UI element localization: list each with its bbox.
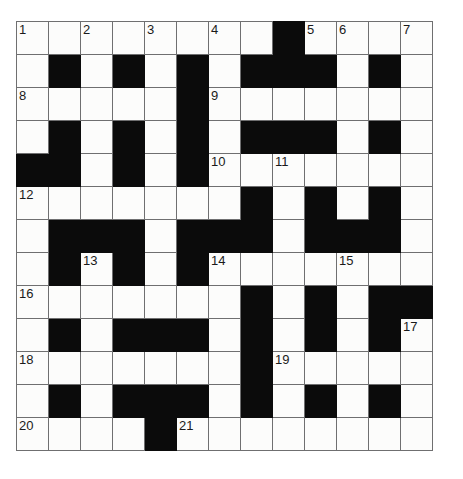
crossword-cell[interactable] [145,55,177,88]
crossword-cell[interactable]: 3 [145,22,177,55]
crossword-cell[interactable]: 4 [209,22,241,55]
crossword-cell[interactable] [305,154,337,187]
crossword-cell[interactable] [113,88,145,121]
crossword-cell[interactable] [401,418,433,451]
crossword-cell[interactable] [401,352,433,385]
crossword-cell[interactable] [209,418,241,451]
crossword-cell[interactable] [177,187,209,220]
crossword-cell[interactable] [337,88,369,121]
crossword-cell[interactable] [273,319,305,352]
crossword-cell[interactable] [81,154,113,187]
crossword-cell[interactable] [145,121,177,154]
crossword-cell[interactable] [401,88,433,121]
crossword-cell[interactable]: 18 [17,352,49,385]
crossword-cell[interactable] [401,385,433,418]
crossword-cell[interactable]: 15 [337,253,369,286]
crossword-cell[interactable]: 20 [17,418,49,451]
crossword-cell[interactable] [145,154,177,187]
crossword-cell[interactable] [337,187,369,220]
crossword-cell[interactable] [17,220,49,253]
crossword-cell[interactable] [209,121,241,154]
crossword-cell[interactable] [273,187,305,220]
crossword-cell[interactable]: 6 [337,22,369,55]
crossword-cell[interactable] [241,22,273,55]
crossword-cell[interactable] [369,352,401,385]
crossword-cell[interactable] [81,121,113,154]
crossword-cell[interactable]: 12 [17,187,49,220]
crossword-cell[interactable] [305,253,337,286]
crossword-cell[interactable] [273,286,305,319]
crossword-cell[interactable] [145,253,177,286]
crossword-cell[interactable]: 14 [209,253,241,286]
crossword-cell[interactable] [81,319,113,352]
crossword-cell[interactable] [305,88,337,121]
crossword-cell[interactable] [273,385,305,418]
crossword-cell[interactable] [369,88,401,121]
crossword-grid[interactable]: 123456789101112131415161718192021 [16,21,433,451]
crossword-cell[interactable] [337,418,369,451]
crossword-cell[interactable] [337,121,369,154]
crossword-cell[interactable] [145,352,177,385]
crossword-cell[interactable] [337,319,369,352]
crossword-cell[interactable] [369,154,401,187]
crossword-cell[interactable] [145,220,177,253]
crossword-cell[interactable] [209,352,241,385]
crossword-cell[interactable] [401,220,433,253]
crossword-cell[interactable]: 10 [209,154,241,187]
crossword-cell[interactable]: 9 [209,88,241,121]
crossword-cell[interactable]: 17 [401,319,433,352]
crossword-cell[interactable] [145,187,177,220]
crossword-cell[interactable]: 5 [305,22,337,55]
crossword-cell[interactable] [369,22,401,55]
crossword-cell[interactable] [17,385,49,418]
crossword-cell[interactable] [81,88,113,121]
crossword-cell[interactable] [401,55,433,88]
crossword-cell[interactable] [81,418,113,451]
crossword-cell[interactable]: 11 [273,154,305,187]
crossword-cell[interactable] [81,352,113,385]
crossword-cell[interactable] [369,253,401,286]
crossword-cell[interactable] [209,55,241,88]
crossword-cell[interactable]: 7 [401,22,433,55]
crossword-cell[interactable] [241,418,273,451]
crossword-cell[interactable] [401,154,433,187]
crossword-cell[interactable] [49,352,81,385]
crossword-cell[interactable] [145,286,177,319]
crossword-cell[interactable] [337,286,369,319]
crossword-cell[interactable] [17,121,49,154]
crossword-cell[interactable] [81,55,113,88]
crossword-cell[interactable] [81,385,113,418]
crossword-cell[interactable] [401,121,433,154]
crossword-cell[interactable] [305,352,337,385]
crossword-cell[interactable] [113,187,145,220]
crossword-cell[interactable] [49,187,81,220]
crossword-cell[interactable]: 8 [17,88,49,121]
crossword-cell[interactable]: 21 [177,418,209,451]
crossword-cell[interactable] [177,352,209,385]
crossword-cell[interactable] [81,286,113,319]
crossword-cell[interactable] [49,22,81,55]
crossword-cell[interactable] [401,187,433,220]
crossword-cell[interactable] [209,286,241,319]
crossword-cell[interactable] [17,55,49,88]
crossword-cell[interactable] [337,352,369,385]
crossword-cell[interactable]: 13 [81,253,113,286]
crossword-cell[interactable]: 2 [81,22,113,55]
crossword-cell[interactable] [113,286,145,319]
crossword-cell[interactable] [241,253,273,286]
crossword-cell[interactable] [209,319,241,352]
crossword-cell[interactable] [113,352,145,385]
crossword-cell[interactable]: 16 [17,286,49,319]
crossword-cell[interactable] [177,286,209,319]
crossword-cell[interactable] [145,88,177,121]
crossword-cell[interactable] [337,385,369,418]
crossword-cell[interactable] [401,253,433,286]
crossword-cell[interactable] [177,22,209,55]
crossword-cell[interactable] [241,88,273,121]
crossword-cell[interactable] [113,418,145,451]
crossword-cell[interactable] [369,418,401,451]
crossword-cell[interactable] [273,220,305,253]
crossword-cell[interactable] [241,154,273,187]
crossword-cell[interactable] [113,22,145,55]
crossword-cell[interactable] [17,253,49,286]
